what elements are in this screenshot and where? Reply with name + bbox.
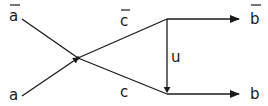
node-b-bar: b bbox=[250, 5, 261, 28]
edge-label-c: c bbox=[120, 83, 128, 101]
node-a: a bbox=[9, 86, 18, 104]
node-a-bar: a bbox=[9, 5, 20, 25]
edge-a-to-crossing bbox=[22, 58, 78, 96]
node-b: b bbox=[250, 85, 260, 103]
node-b-bar-label: b bbox=[250, 10, 260, 28]
signal-flow-diagram: a a c c u b b bbox=[0, 0, 268, 106]
node-a-label: a bbox=[9, 86, 18, 104]
edge-c-label: c bbox=[120, 83, 128, 101]
node-a-bar-label: a bbox=[9, 7, 18, 25]
edge-u-label: u bbox=[171, 48, 181, 66]
edge-c-bar-label: c bbox=[120, 12, 128, 30]
edge-label-c-bar: c bbox=[120, 10, 130, 30]
node-b-label: b bbox=[250, 85, 260, 103]
edge-label-u: u bbox=[171, 48, 181, 66]
edge-a-bar-to-crossing bbox=[22, 19, 78, 58]
